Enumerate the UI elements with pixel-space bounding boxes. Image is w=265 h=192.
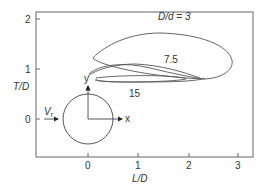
x-axis-label: L/D (132, 173, 148, 184)
x-tick-label-2: 2 (186, 160, 192, 171)
y-axis-label: T/D (13, 81, 29, 92)
label-dd-3: D/d = 3 (158, 11, 191, 22)
x-tick-label-0: 0 (85, 160, 91, 171)
cylinder-diagram: x y Vr (44, 73, 130, 144)
label-dd-7-5: 7.5 (164, 54, 178, 65)
x-axis: 0 1 2 3 L/D (85, 153, 241, 184)
trajectory-chart: 2 1 0 T/D 0 1 2 3 L/D D/d = 3 7.5 15 x y… (0, 0, 265, 192)
y-tick-label-2: 2 (25, 14, 31, 25)
flow-label-sub: r (51, 111, 54, 118)
flow-label: Vr (44, 106, 54, 118)
y-tick-label-0: 0 (25, 114, 31, 125)
y-tick-label-1: 1 (25, 64, 31, 75)
x-tick-label-3: 3 (235, 160, 241, 171)
x-tick-label-1: 1 (135, 160, 141, 171)
curve-dd-15 (96, 76, 186, 82)
y-axis-arrow-label: y (84, 73, 89, 84)
label-dd-15: 15 (129, 88, 141, 99)
x-axis-arrow-label: x (125, 113, 130, 124)
curve-dd-3 (89, 33, 232, 79)
